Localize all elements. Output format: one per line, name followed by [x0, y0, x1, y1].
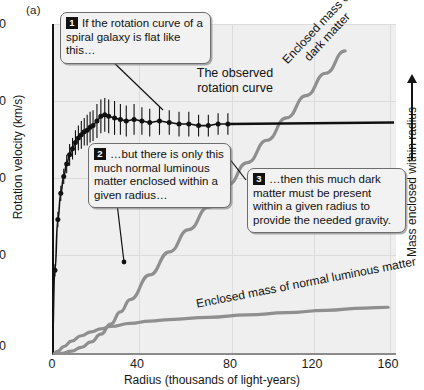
callout-3-text: …then this much dark matter must be pres…	[253, 173, 391, 226]
callout-2-number: 2	[94, 148, 106, 160]
callout-2-text: …but there is only this much normal lumi…	[94, 148, 224, 201]
callout-3: 3…then this much dark matter must be pre…	[247, 168, 406, 233]
callout-1: 1If the rotation curve of a spiral galax…	[60, 12, 211, 64]
callout-3-number: 3	[253, 173, 265, 185]
callout-1-number: 1	[66, 17, 78, 29]
luminous-matter-curve	[52, 307, 388, 355]
rotation-curve-figure: (a) 200 150 100 50 0 0 40 80 120 160 Rad…	[0, 0, 424, 390]
callout-2: 2…but there is only this much normal lum…	[88, 143, 231, 208]
observed-curve-label: The observed rotation curve	[180, 66, 290, 96]
callout-1-text: If the rotation curve of a spiral galaxy…	[66, 17, 203, 56]
